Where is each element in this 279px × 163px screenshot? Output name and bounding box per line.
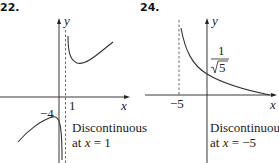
discontinuity-note-line1: Discontinuous [210,120,279,135]
tick-label-x: −5 [170,96,184,111]
y-intercept-label: 1 5 [211,43,229,75]
figure-number: 22. [0,1,20,14]
y-axis-label: y [62,13,70,28]
curve [181,28,270,95]
discontinuity-note-line2: at x = 1 [72,135,111,150]
figure-number: 24. [140,1,160,14]
y-axis-arrow-icon [205,18,209,24]
fraction-denominator: 5 [219,60,226,75]
curve-lower-branch [18,117,62,160]
discontinuity-note-line2: at x = −5 [210,135,256,150]
figure-22: 22. y x −4 1 Discontinuous at x = 1 [0,1,147,163]
tick-label-x: 1 [69,98,76,113]
figure-24: 24. y x −5 1 5 Discontinuous at x = −5 [140,1,279,163]
discontinuity-note-line1: Discontinuous [72,120,147,135]
x-axis-label: x [269,97,276,112]
tick-label-y: −4 [40,106,54,121]
x-axis-label: x [120,98,127,113]
y-axis-arrow-icon [57,18,61,24]
fraction-numerator: 1 [218,43,225,58]
figure-canvas: 22. y x −4 1 Discontinuous at x = 1 24. … [0,0,279,163]
curve-upper-branch [68,36,113,63]
y-axis-label: y [210,13,218,28]
